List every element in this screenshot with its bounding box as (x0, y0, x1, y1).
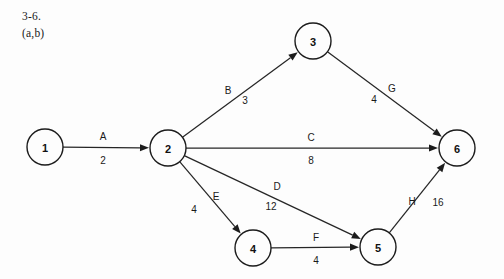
edge-label-C: C (307, 132, 314, 143)
node-label-2: 2 (165, 143, 171, 155)
nodes-layer: 123456 (27, 23, 475, 266)
arrowhead-D-icon (351, 232, 361, 239)
edge-cost-E: 4 (191, 204, 197, 215)
edge-cost-F: 4 (313, 255, 319, 266)
edge-label-G: G (388, 83, 396, 94)
network-diagram: 123456 A2B3C8D12E4F4G4H16 (0, 0, 504, 279)
edge-F (271, 244, 359, 251)
edge-cost-B: 3 (242, 95, 248, 106)
arrowhead-F-icon (350, 244, 359, 251)
edge-cost-C: 8 (308, 155, 314, 166)
edge-label-A: A (100, 131, 107, 142)
edge-cost-D: 12 (265, 201, 277, 212)
diagram-page: 3-6. (a,b) 123456 A2B3C8D12E4F4G4H16 (0, 0, 504, 279)
edge-cost-G: 4 (371, 94, 377, 105)
edge-C (186, 144, 438, 151)
node-label-4: 4 (250, 243, 257, 255)
arrowhead-H-icon (437, 163, 445, 172)
node-1[interactable]: 1 (27, 129, 63, 165)
edge-label-E: E (213, 191, 220, 202)
arrowhead-B-icon (288, 52, 297, 60)
edge-label-H: H (408, 196, 415, 207)
node-4[interactable]: 4 (235, 230, 271, 266)
edge-D (184, 156, 361, 239)
node-2[interactable]: 2 (150, 130, 186, 166)
node-label-5: 5 (375, 242, 381, 254)
node-label-1: 1 (42, 142, 48, 154)
edge-label-D: D (273, 181, 280, 192)
edge-A (63, 144, 149, 151)
arrowhead-A-icon (140, 144, 149, 151)
node-5[interactable]: 5 (360, 229, 396, 265)
edge-label-F: F (313, 232, 319, 243)
edge-cost-A: 2 (100, 155, 106, 166)
edge-label-B: B (225, 85, 232, 96)
arrowhead-C-icon (429, 144, 438, 151)
node-label-3: 3 (310, 36, 316, 48)
arrowhead-G-icon (432, 128, 441, 136)
edge-B (182, 52, 297, 137)
edge-E (180, 162, 241, 234)
edge-G (327, 52, 441, 137)
node-label-6: 6 (454, 143, 460, 155)
node-3[interactable]: 3 (295, 23, 331, 59)
edge-cost-H: 16 (432, 197, 444, 208)
node-6[interactable]: 6 (439, 130, 475, 166)
